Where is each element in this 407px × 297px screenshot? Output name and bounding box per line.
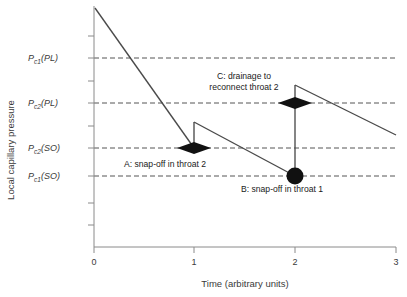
y-tick-label-pc1-so: Pc1(SO) bbox=[28, 171, 60, 183]
x-tick-label-1: 1 bbox=[191, 257, 196, 267]
y-tick-label-pc2-so: Pc2(SO) bbox=[28, 143, 60, 155]
x-axis-title: Time (arbitrary units) bbox=[201, 278, 288, 289]
x-tick-label-3: 3 bbox=[393, 257, 398, 267]
chart-page: Pc1(PL) Pc2(PL) Pc2(SO) Pc1(SO) 0 1 2 3 … bbox=[0, 0, 407, 297]
y-tick-label-pc2-pl: Pc2(PL) bbox=[28, 98, 58, 110]
marker-circle-b bbox=[287, 168, 304, 185]
annotation-c-line2: reconnect throat 2 bbox=[209, 82, 278, 92]
annotation-a: A: snap-off in throat 2 bbox=[124, 159, 206, 169]
y-tick-label-pc1-pl: Pc1(PL) bbox=[28, 53, 58, 65]
x-tick-label-2: 2 bbox=[292, 257, 297, 267]
x-tick-label-0: 0 bbox=[91, 257, 96, 267]
capillary-pressure-chart: Pc1(PL) Pc2(PL) Pc2(SO) Pc1(SO) 0 1 2 3 … bbox=[0, 0, 407, 297]
y-axis-title: Local capillary pressure bbox=[5, 100, 16, 200]
annotation-c-line1: C: drainage to bbox=[217, 71, 271, 81]
annotation-b: B: snap-off in throat 1 bbox=[241, 184, 323, 194]
